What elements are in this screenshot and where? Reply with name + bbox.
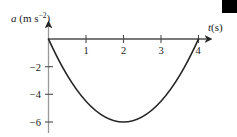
x-tick-label-2: 2 (121, 45, 126, 56)
figure-container: 1 2 3 4 −2 −4 −6 a (m s−2) t(s) (0, 0, 237, 137)
y-tick-label-minus2: −2 (30, 62, 41, 73)
x-tick-label-1: 1 (83, 45, 88, 56)
acceleration-time-plot: 1 2 3 4 −2 −4 −6 a (m s−2) t(s) (0, 0, 237, 137)
y-axis-label-unit-close: ) (46, 12, 50, 25)
y-axis-label-unit-open: (m s (17, 12, 39, 25)
y-axis-label: a (m s−2) (11, 11, 50, 25)
x-axis-label: t(s) (208, 21, 223, 34)
y-tick-label-minus6: −6 (30, 117, 41, 128)
x-tick-label-4: 4 (195, 45, 201, 56)
y-axis-label-exponent: −2 (39, 11, 47, 20)
x-tick-label-3: 3 (158, 45, 163, 56)
x-axis-label-unit: (s) (211, 21, 223, 34)
y-tick-label-minus4: −4 (30, 89, 42, 100)
